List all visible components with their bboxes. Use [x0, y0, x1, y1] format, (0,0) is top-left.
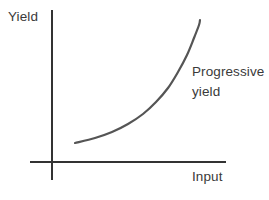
- curve-annotation-line-2: yield: [192, 82, 269, 102]
- curve-annotation: Progressive yield: [192, 62, 269, 102]
- y-axis-label: Yield: [8, 9, 38, 24]
- progressive-yield-figure: Yield Input Progressive yield: [0, 0, 269, 200]
- curve-annotation-line-1: Progressive: [192, 62, 269, 82]
- progressive-yield-curve: [75, 20, 200, 143]
- x-axis-label: Input: [192, 169, 223, 184]
